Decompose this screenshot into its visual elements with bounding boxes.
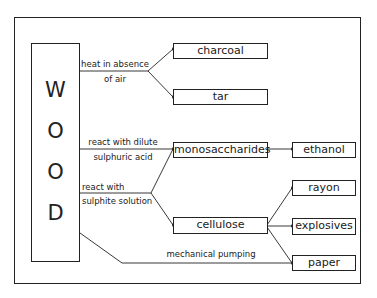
box-cellulose: cellulose (173, 217, 268, 234)
label-mechanical: mechanical pumping (146, 249, 276, 259)
label-dilute-line1: react with dilute (82, 137, 164, 147)
box-ethanol: ethanol (292, 142, 356, 158)
box-explosives: explosives (292, 218, 356, 235)
box-monosaccharides: monosaccharides (173, 142, 268, 158)
label-heat-line2: of air (80, 74, 150, 84)
box-rayon: rayon (292, 180, 356, 196)
label-heat-line1: heat in absence (80, 59, 150, 69)
label-sulphite-line1: react with (82, 182, 125, 192)
label-dilute-line2: sulphuric acid (82, 152, 164, 162)
box-charcoal: charcoal (173, 43, 268, 59)
box-tar: tar (173, 89, 268, 105)
box-paper: paper (292, 255, 356, 271)
label-sulphite-line2: sulphite solution (82, 196, 152, 206)
